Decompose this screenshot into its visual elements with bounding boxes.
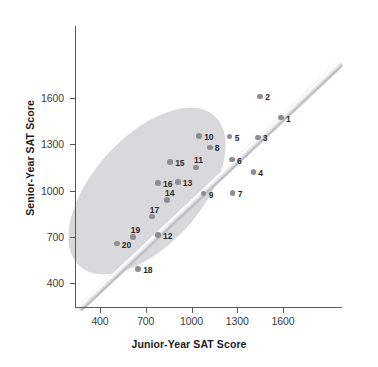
- y-axis-line: [75, 26, 76, 308]
- data-point-label: 18: [143, 266, 152, 275]
- data-point: [135, 266, 141, 272]
- data-point-label: 7: [238, 190, 243, 199]
- data-point: [227, 134, 233, 140]
- data-point-label: 2: [265, 93, 270, 102]
- data-point: [251, 169, 257, 175]
- x-tick-label: 1000: [175, 315, 209, 327]
- scatter-chart: Senior-Year SAT Score 400700100013001600…: [0, 0, 378, 367]
- data-point: [230, 190, 236, 196]
- correlation-ellipse: [39, 80, 254, 302]
- data-point: [257, 94, 263, 100]
- x-tick-label: 1300: [220, 315, 254, 327]
- x-tick-label: 400: [83, 315, 117, 327]
- data-point-label: 5: [235, 134, 240, 143]
- x-tick-label: 700: [129, 315, 163, 327]
- x-axis-title: Junior-Year SAT Score: [0, 338, 378, 350]
- y-axis-title: Senior-Year SAT Score: [24, 33, 36, 283]
- data-point-label: 4: [258, 169, 263, 178]
- x-tick-label: 1600: [266, 315, 300, 327]
- x-axis-line: [75, 307, 342, 308]
